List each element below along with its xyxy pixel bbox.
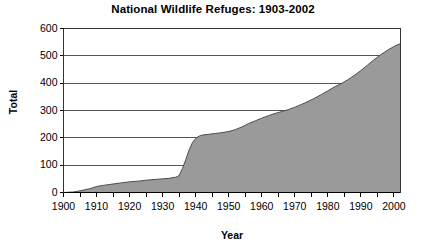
y-axis-tick-label: 500 (18, 49, 58, 61)
y-axis-tick-label: 0 (18, 186, 58, 198)
y-axis-tick-label: 300 (18, 104, 58, 116)
y-axis-tick-label: 400 (18, 76, 58, 88)
y-axis-tick-label: 200 (18, 131, 58, 143)
x-axis-tick-label: 2000 (372, 200, 416, 212)
chart-container: National Wildlife Refuges: 1903-2002 Tot… (0, 0, 426, 251)
y-axis-tick-label: 600 (18, 22, 58, 34)
area-series (64, 44, 401, 193)
y-axis-tick-label: 100 (18, 158, 58, 170)
plot-area (0, 0, 426, 251)
